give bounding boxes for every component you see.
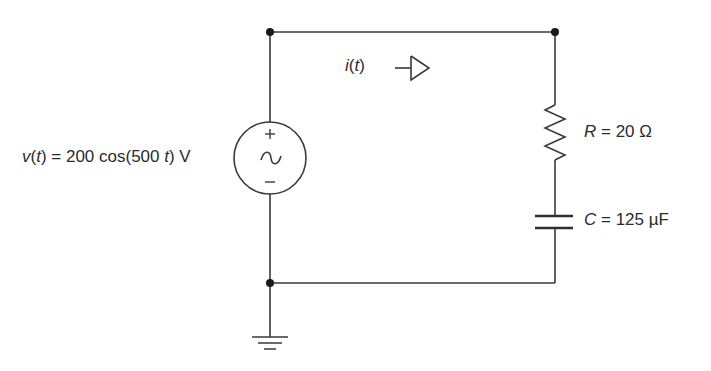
node-dot-top-left xyxy=(266,28,274,36)
capacitor-value: = 125 µF xyxy=(596,210,669,229)
source-suffix: ) V xyxy=(169,147,191,166)
source-arg: t xyxy=(36,147,41,166)
node-dot-bottom-left xyxy=(266,279,274,287)
ac-tilde-icon xyxy=(261,152,281,164)
capacitor-symbol: C xyxy=(584,210,596,229)
resistor-zigzag xyxy=(545,105,565,160)
resistor-value: = 20 Ω xyxy=(596,122,652,141)
resistor-label: R = 20 Ω xyxy=(584,122,652,142)
current-label: i(t) xyxy=(345,56,365,76)
capacitor-label: C = 125 µF xyxy=(584,210,669,230)
current-arrow-head xyxy=(411,56,429,80)
current-var: i xyxy=(345,56,349,75)
node-dot-top-right xyxy=(551,28,559,36)
current-arg: t xyxy=(354,56,359,75)
source-eq: = 200 cos(500 xyxy=(47,147,165,166)
source-var: v xyxy=(22,147,31,166)
resistor-symbol: R xyxy=(584,122,596,141)
source-label: v(t) = 200 cos(500 t) V xyxy=(22,147,191,167)
